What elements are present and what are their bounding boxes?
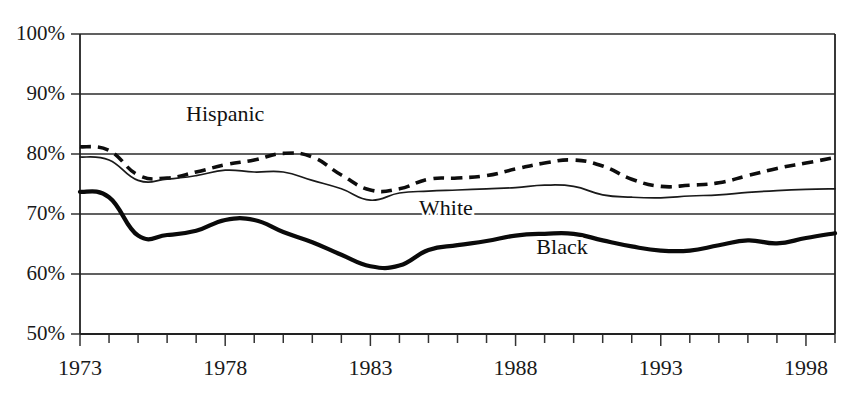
- x-tick-label-1978: 1978: [203, 355, 247, 380]
- y-tick-label-50: 50%: [27, 321, 66, 345]
- x-tick-label-1993: 1993: [639, 355, 683, 380]
- y-axis-tick-labels: 100%90%80%70%60%50%: [16, 21, 65, 345]
- x-tick-label-1988: 1988: [494, 355, 538, 380]
- y-tick-marks: [71, 34, 80, 334]
- x-tick-label-1983: 1983: [348, 355, 392, 380]
- x-tick-marks: [80, 334, 835, 346]
- y-tick-label-90: 90%: [27, 81, 66, 105]
- y-tick-label-80: 80%: [27, 141, 66, 165]
- line-chart: 100%90%80%70%60%50% 19731978198319881993…: [0, 0, 852, 399]
- y-tick-label-100: 100%: [16, 21, 65, 45]
- x-tick-label-1973: 1973: [58, 355, 102, 380]
- chart-figure: 100%90%80%70%60%50% 19731978198319881993…: [0, 0, 852, 399]
- y-tick-label-60: 60%: [27, 261, 66, 285]
- series-label-black: Black: [536, 234, 587, 259]
- y-tick-label-70: 70%: [27, 201, 66, 225]
- series-label-white: White: [419, 195, 473, 220]
- x-tick-label-1998: 1998: [784, 355, 828, 380]
- x-axis-tick-labels: 197319781983198819931998: [58, 355, 828, 380]
- series-label-hispanic: Hispanic: [186, 101, 264, 126]
